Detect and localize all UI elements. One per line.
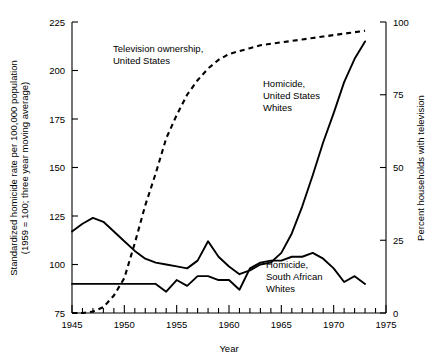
right-axis-tick-label: 100 [393, 17, 409, 28]
right-axis-tick-label: 75 [393, 89, 404, 100]
left-axis-tick-label: 150 [49, 162, 65, 173]
x-axis-tick-label: 1965 [271, 319, 292, 330]
right-axis-tick-label: 0 [393, 308, 398, 319]
x-axis-tick-label: 1960 [218, 319, 239, 330]
right-axis-tick-labels: 0255075100 [393, 17, 409, 319]
annotation-us-line-2: United States [263, 90, 320, 101]
x-axis-tick-label: 1945 [61, 319, 82, 330]
annotation-homicide-united-states-whites: Homicide, United States Whites [263, 78, 320, 113]
annotation-tv-line-1: Television ownership, [113, 43, 203, 54]
left-axis-tick-label: 100 [49, 259, 65, 270]
line-chart: 75100125150175200225 1945195019551960196… [0, 0, 436, 363]
x-axis-tick-label: 1970 [323, 319, 344, 330]
y2-axis-title: Percent households with television [415, 95, 426, 241]
right-axis-ticks [380, 22, 386, 313]
annotation-homicide-south-african-whites: Homicide, South African Whites [266, 259, 323, 294]
left-axis-tick-label: 75 [54, 308, 65, 319]
left-axis-tick-label: 125 [49, 211, 65, 222]
chart-figure: 75100125150175200225 1945195019551960196… [0, 0, 436, 363]
annotation-us-line-1: Homicide, [263, 78, 305, 89]
annotation-sa-line-1: Homicide, [266, 259, 308, 270]
left-axis: 75100125150175200225 [49, 17, 78, 319]
bottom-axis: 1945195019551960196519701975 [61, 305, 396, 330]
left-axis-tick-label: 175 [49, 114, 65, 125]
x-axis-major-ticks [72, 305, 386, 313]
left-axis-tick-label: 225 [49, 17, 65, 28]
x-axis-tick-label: 1955 [166, 319, 187, 330]
x-axis-title: Year [219, 343, 238, 354]
y-axis-title-line2: (1959 = 100; three year moving average) [19, 82, 30, 254]
right-axis-tick-label: 25 [393, 235, 404, 246]
annotation-sa-line-3: Whites [266, 283, 295, 294]
series-homicide-united-states-whites [72, 41, 365, 274]
x-axis-tick-label: 1975 [375, 319, 396, 330]
annotation-us-line-3: Whites [263, 102, 292, 113]
left-axis-tick-labels: 75100125150175200225 [49, 17, 65, 319]
left-axis-tick-label: 200 [49, 65, 65, 76]
annotation-tv-line-2: United States [113, 55, 170, 66]
annotation-sa-line-2: South African [266, 271, 323, 282]
right-axis: 0255075100 [380, 17, 409, 319]
x-axis-tick-label: 1950 [114, 319, 135, 330]
y-axis-title-line1: Standardized homicide rate per 100,000 p… [8, 60, 19, 276]
right-axis-tick-label: 50 [393, 162, 404, 173]
left-axis-ticks [72, 22, 78, 313]
annotation-television-ownership: Television ownership, United States [113, 43, 203, 66]
x-axis-tick-labels: 1945195019551960196519701975 [61, 319, 396, 330]
